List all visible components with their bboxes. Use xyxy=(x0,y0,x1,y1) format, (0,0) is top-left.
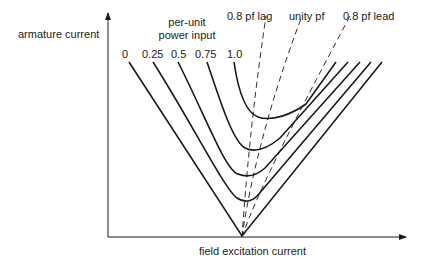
power-label-0.25: 0.25 xyxy=(142,48,163,60)
pf-unity-line xyxy=(242,16,302,237)
power-label-1.0: 1.0 xyxy=(227,48,242,60)
x-axis-label: field excitation current xyxy=(199,245,306,257)
pf-lead-label: 0.8 pf lead xyxy=(343,10,394,22)
power-label-0.75: 0.75 xyxy=(195,48,216,60)
power-label-0: 0 xyxy=(122,48,128,60)
y-axis-label: armature current xyxy=(18,28,99,40)
legend-title-line1: per-unit xyxy=(142,16,232,28)
pf-unity-label: unity pf xyxy=(289,10,324,22)
legend-title-line2: power input xyxy=(142,29,232,41)
pf-lag-line xyxy=(242,16,266,237)
power-label-0.5: 0.5 xyxy=(171,48,186,60)
curve-power-0.25 xyxy=(153,62,371,201)
pf-lead-line xyxy=(242,16,350,237)
pf-lag-label: 0.8 pf lag xyxy=(227,10,272,22)
curve-power-0 xyxy=(129,62,382,236)
